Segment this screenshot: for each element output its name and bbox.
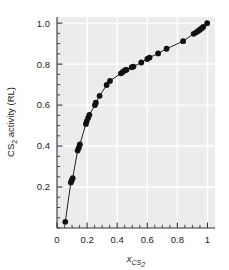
data-point	[93, 100, 99, 106]
data-point	[147, 55, 153, 61]
y-tick-label: 0.8	[37, 59, 50, 70]
data-point	[164, 46, 170, 52]
data-point	[131, 64, 137, 70]
data-point	[124, 67, 130, 73]
y-tick-label: 0.4	[37, 140, 50, 151]
x-tick-label: 1	[205, 234, 210, 245]
x-tick-label: 0.4	[111, 234, 124, 245]
x-tick-label: 0.8	[171, 234, 184, 245]
data-point	[138, 60, 144, 66]
data-point	[86, 112, 92, 118]
data-point	[62, 219, 68, 225]
plot-panel-background	[57, 17, 215, 228]
x-tick-label: 0.2	[80, 234, 93, 245]
y-tick-label: 0.6	[37, 99, 50, 110]
data-point	[155, 51, 161, 57]
data-point	[180, 38, 186, 44]
data-point	[204, 20, 210, 26]
y-tick-label: 0.2	[37, 181, 50, 192]
chart-figure: 00.20.40.60.81 0.20.40.60.81.0 xCS2 CS2 …	[0, 0, 229, 270]
data-point	[70, 175, 76, 181]
y-tick-label: 1.0	[37, 18, 50, 29]
x-tick-label: 0.6	[141, 234, 154, 245]
data-point	[77, 142, 83, 148]
data-point	[107, 78, 113, 84]
x-tick-label: 0	[54, 234, 59, 245]
data-point	[97, 93, 103, 99]
